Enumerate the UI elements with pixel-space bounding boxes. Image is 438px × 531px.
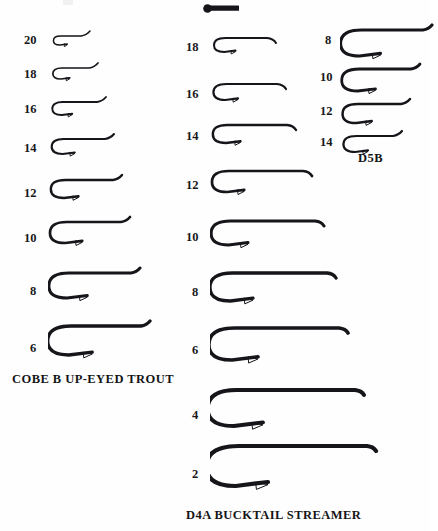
hook-size-label: 8 xyxy=(30,285,36,298)
hook-illustration xyxy=(48,131,124,168)
hook-size-label: 12 xyxy=(186,179,199,192)
hook-barb xyxy=(66,78,69,81)
hook-size-label: 4 xyxy=(192,409,198,422)
hook-size-label: 18 xyxy=(186,41,199,54)
hook-size-label: 12 xyxy=(24,187,37,200)
hook-size-label: 2 xyxy=(192,468,198,481)
scan-artifact xyxy=(63,0,73,5)
hook-size-label: 10 xyxy=(320,71,333,84)
hook-barb xyxy=(233,98,238,102)
hook-barb xyxy=(65,44,68,46)
hook-illustration xyxy=(48,265,150,312)
hook-size-label: 8 xyxy=(325,34,331,47)
hook-size-label: 6 xyxy=(30,342,36,355)
hook-size-label: 18 xyxy=(24,68,37,81)
hook-illustration xyxy=(48,94,116,129)
hook-size-label: 20 xyxy=(24,34,37,47)
hook-size-label: 10 xyxy=(186,231,199,244)
hook-size-label: 14 xyxy=(24,142,37,155)
hook-illustration xyxy=(210,213,334,259)
hook-illustration xyxy=(210,76,296,114)
hook-barb xyxy=(231,51,235,54)
hook-illustration xyxy=(48,214,140,257)
hook-size-label: 14 xyxy=(186,130,199,143)
hook-size-label: 10 xyxy=(24,232,37,245)
hook-illustration xyxy=(48,60,108,93)
hook-size-label: 8 xyxy=(192,286,198,299)
chart-caption-center: D4A BUCKTAIL STREAMER xyxy=(186,508,361,523)
hook-illustration xyxy=(48,28,100,59)
cut-off-hook-shank-icon xyxy=(203,4,239,13)
hook-size-label: 16 xyxy=(24,103,37,116)
hook-illustration xyxy=(48,172,132,212)
hook-illustration xyxy=(210,30,286,66)
hook-barb xyxy=(68,114,72,117)
hook-illustration xyxy=(210,320,358,374)
hook-barb xyxy=(70,152,75,155)
hook-illustration xyxy=(210,163,322,206)
hook-size-label: 6 xyxy=(192,344,198,357)
hook-illustration xyxy=(210,382,374,440)
hook-size-label: 12 xyxy=(320,105,333,118)
hook-illustration xyxy=(210,438,386,500)
hook-illustration xyxy=(48,318,160,369)
hook-size-label: 16 xyxy=(186,88,199,101)
hook-illustration xyxy=(210,117,306,157)
chart-caption-left: COBE B UP-EYED TROUT xyxy=(12,372,174,387)
hook-illustration xyxy=(210,265,346,315)
chart-caption-right: D5B xyxy=(358,151,383,166)
hook-size-label: 14 xyxy=(320,136,333,149)
